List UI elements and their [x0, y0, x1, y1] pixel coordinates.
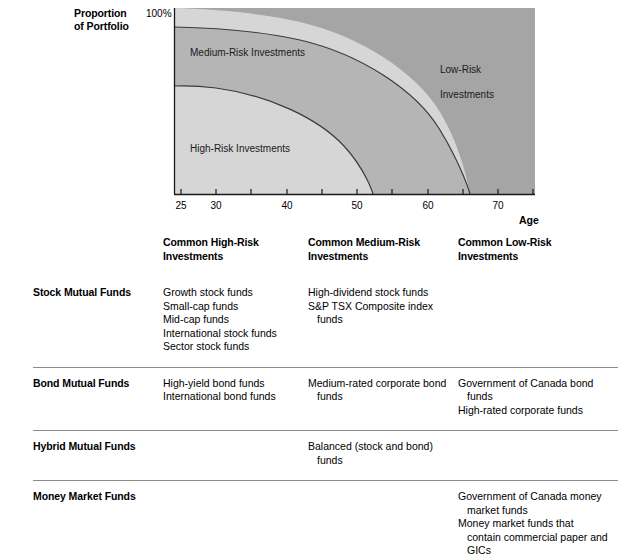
- table-cell-high-risk: Growth stock fundsSmall-cap fundsMid-cap…: [163, 277, 308, 367]
- risk-allocation-chart: Proportion of Portfolio 100% Medium-Risk…: [0, 0, 625, 232]
- fund-types-table: Common High-Risk Investments Common Medi…: [0, 232, 625, 558]
- fund-list-item: Balanced (stock and bond) funds: [308, 440, 448, 467]
- table-cell-low-risk: Government of Canada bond fundsHigh-rate…: [458, 367, 618, 431]
- table-header-low-risk-line2: Investments: [458, 250, 518, 262]
- table-cell-low-risk: Government of Canada money market fundsM…: [458, 481, 618, 558]
- fund-list-item: Medium-rated corporate bond funds: [308, 377, 448, 404]
- table-cell-medium-risk: Medium-rated corporate bond funds: [308, 367, 458, 431]
- x-tick-label-40: 40: [275, 200, 299, 211]
- table-row: Hybrid Mutual FundsBalanced (stock and b…: [33, 431, 618, 481]
- fund-list-item: International bond funds: [163, 390, 298, 404]
- medium-risk-band-label: Medium-Risk Investments: [190, 47, 305, 60]
- x-tick-label-60: 60: [416, 200, 440, 211]
- table-row: Money Market FundsGovernment of Canada m…: [33, 481, 618, 558]
- table-header-medium-risk-line1: Common Medium-Risk: [308, 236, 420, 248]
- fund-list-item: Government of Canada bond funds: [458, 377, 608, 404]
- x-tick-label-30: 30: [204, 200, 228, 211]
- y-axis-title-line2: of Portfolio: [74, 20, 158, 33]
- table-cell-low-risk: [458, 277, 618, 367]
- table-row-label: Hybrid Mutual Funds: [33, 431, 163, 481]
- table-cell-medium-risk: [308, 481, 458, 558]
- x-axis-title: Age: [519, 214, 539, 226]
- chart-plot-area: [0, 0, 625, 232]
- fund-list: Medium-rated corporate bond funds: [308, 377, 448, 404]
- fund-list: Government of Canada bond fundsHigh-rate…: [458, 377, 608, 418]
- low-risk-band-label-line2: Investments: [440, 89, 494, 100]
- fund-list: Growth stock fundsSmall-cap fundsMid-cap…: [163, 286, 298, 354]
- table-header-low-risk-line1: Common Low-Risk: [458, 236, 552, 248]
- fund-list-item: Small-cap funds: [163, 300, 298, 314]
- table-row-label: Bond Mutual Funds: [33, 367, 163, 431]
- table-cell-medium-risk: High-dividend stock fundsS&P TSX Composi…: [308, 277, 458, 367]
- table-header-high-risk-line1: Common High-Risk: [163, 236, 259, 248]
- table-header-category: [33, 232, 163, 277]
- fund-list-item: Money market funds that contain commerci…: [458, 517, 608, 558]
- table-header: Common High-Risk Investments Common Medi…: [33, 232, 618, 277]
- table-body: Stock Mutual FundsGrowth stock fundsSmal…: [33, 277, 618, 558]
- table-header-medium-risk-line2: Investments: [308, 250, 368, 262]
- fund-list-item: International stock funds: [163, 327, 298, 341]
- fund-risk-table: Common High-Risk Investments Common Medi…: [33, 232, 618, 558]
- fund-list: High-yield bond fundsInternational bond …: [163, 377, 298, 404]
- table-cell-high-risk: High-yield bond fundsInternational bond …: [163, 367, 308, 431]
- fund-list-item: S&P TSX Composite index funds: [308, 300, 448, 327]
- x-tick-label-50: 50: [345, 200, 369, 211]
- table-row-label: Stock Mutual Funds: [33, 277, 163, 367]
- fund-list: High-dividend stock fundsS&P TSX Composi…: [308, 286, 448, 327]
- table-cell-medium-risk: Balanced (stock and bond) funds: [308, 431, 458, 481]
- table-row: Bond Mutual FundsHigh-yield bond fundsIn…: [33, 367, 618, 431]
- x-tick-label-25: 25: [169, 200, 193, 211]
- fund-list-item: Sector stock funds: [163, 340, 298, 354]
- table-header-high-risk: Common High-Risk Investments: [163, 232, 308, 277]
- table-header-medium-risk: Common Medium-Risk Investments: [308, 232, 458, 277]
- low-risk-band-label-line1: Low-Risk: [440, 64, 481, 75]
- fund-list-item: High-rated corporate funds: [458, 404, 608, 418]
- x-tick-label-70: 70: [486, 200, 510, 211]
- table-header-low-risk: Common Low-Risk Investments: [458, 232, 618, 277]
- table-cell-low-risk: [458, 431, 618, 481]
- fund-list-item: High-yield bond funds: [163, 377, 298, 391]
- low-risk-band-label: Low-Risk Investments: [440, 51, 494, 101]
- table-header-high-risk-line2: Investments: [163, 250, 223, 262]
- table-header-row: Common High-Risk Investments Common Medi…: [33, 232, 618, 277]
- table-row: Stock Mutual FundsGrowth stock fundsSmal…: [33, 277, 618, 367]
- fund-list-item: Government of Canada money market funds: [458, 490, 608, 517]
- y-axis-max-label: 100%: [146, 8, 172, 19]
- table-cell-high-risk: [163, 481, 308, 558]
- table-cell-high-risk: [163, 431, 308, 481]
- table-row-label: Money Market Funds: [33, 481, 163, 558]
- fund-list-item: Growth stock funds: [163, 286, 298, 300]
- fund-list: Government of Canada money market fundsM…: [458, 490, 608, 558]
- high-risk-band-label: High-Risk Investments: [190, 143, 290, 156]
- fund-list-item: Mid-cap funds: [163, 313, 298, 327]
- fund-list: Balanced (stock and bond) funds: [308, 440, 448, 467]
- fund-list-item: High-dividend stock funds: [308, 286, 448, 300]
